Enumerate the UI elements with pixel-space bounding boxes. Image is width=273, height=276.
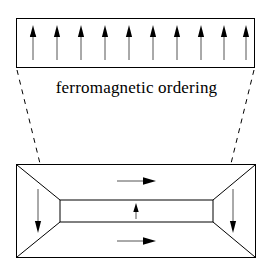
figure-caption: ferromagnetic ordering [0, 78, 273, 98]
figure-canvas [0, 0, 273, 276]
top-strip-border [17, 19, 255, 68]
top-strip-group [17, 19, 255, 68]
domain-block-group [17, 165, 256, 258]
ferromagnetic-domain-figure: ferromagnetic ordering [0, 0, 273, 276]
